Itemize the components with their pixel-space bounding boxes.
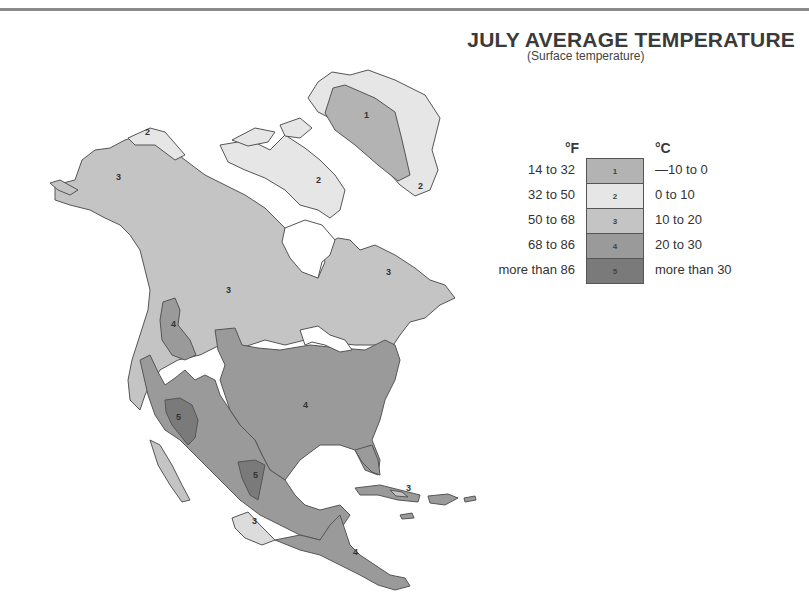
zone-label: 3 <box>116 172 121 182</box>
legend-celsius-range: —10 to 0 <box>655 162 708 177</box>
legend-swatch-zone-2: 2 <box>587 184 643 209</box>
zone-label: 2 <box>418 181 423 191</box>
legend-swatch-zone-1: 1 <box>587 159 643 184</box>
zone-label: 5 <box>253 470 258 480</box>
legend-celsius-range: 20 to 30 <box>655 237 702 252</box>
arctic-island-small <box>280 118 312 138</box>
hispaniola <box>428 494 458 505</box>
zone-label: 4 <box>303 400 308 410</box>
zone-label: 3 <box>406 483 411 493</box>
legend-fahrenheit-range: more than 86 <box>498 262 575 277</box>
legend-fahrenheit-range: 68 to 86 <box>528 237 575 252</box>
legend-fahrenheit-range: 50 to 68 <box>528 212 575 227</box>
baja-california <box>150 440 190 502</box>
zone-label: 3 <box>386 267 391 277</box>
celsius-header: °C <box>655 140 671 156</box>
legend-fahrenheit-range: 32 to 50 <box>528 187 575 202</box>
legend-swatch-zone-5: 5 <box>587 259 643 283</box>
legend-celsius-range: 0 to 10 <box>655 187 695 202</box>
zone-label: 3 <box>226 285 231 295</box>
puerto-rico <box>464 496 476 502</box>
jamaica <box>400 513 414 519</box>
legend-celsius-range: more than 30 <box>655 262 732 277</box>
legend-swatch-zone-3: 3 <box>587 209 643 234</box>
legend-celsius-range: 10 to 20 <box>655 212 702 227</box>
zone-label: 2 <box>145 127 150 137</box>
fahrenheit-header: °F <box>565 140 579 156</box>
zone-label: 1 <box>364 110 369 120</box>
zone-label: 3 <box>252 516 257 526</box>
temperature-legend: °F °C 14 to 32 32 to 50 50 to 68 68 to 8… <box>470 140 790 300</box>
legend-swatch-column: 1 2 3 4 5 <box>586 158 644 284</box>
zone-label: 5 <box>176 412 181 422</box>
zone-label: 4 <box>171 319 176 329</box>
zone-label: 4 <box>353 547 358 557</box>
legend-fahrenheit-range: 14 to 32 <box>528 162 575 177</box>
zone-label: 2 <box>316 175 321 185</box>
legend-swatch-zone-4: 4 <box>587 234 643 259</box>
